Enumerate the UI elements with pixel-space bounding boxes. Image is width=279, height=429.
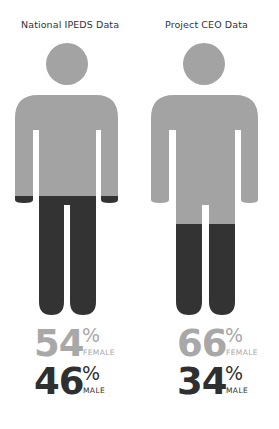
female-unit: % [225,326,243,345]
male-unit: % [225,364,243,383]
male-value: 34 [177,363,227,400]
male-label: MALE [226,387,248,395]
female-label: FEMALE [226,349,258,357]
female-fill [140,0,279,224]
female-value: 66 [177,325,227,362]
